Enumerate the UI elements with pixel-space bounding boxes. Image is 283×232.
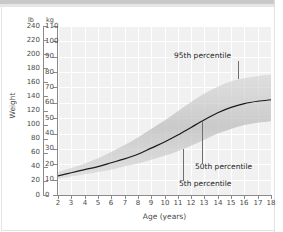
y-axis-line-kg [57,26,58,195]
window-top-bar [0,0,283,7]
chart-card: lb kg Weight 01020304050607 [1,7,275,231]
y-tick-lb [43,26,48,27]
y-tick-label-kg: 70 [45,84,54,91]
annotation-95th-leader-line [238,61,239,79]
y-tick-label-lb: 140 [16,93,40,100]
annotation-50th-leader-line [202,121,203,164]
y-tick-label-lb: 240 [16,23,40,30]
y-tick-label-kg: 50 [45,115,54,122]
annotation-50th-percentile: 50th percentile [195,162,252,171]
y-tick-lb [43,139,48,140]
y-tick-lb [43,40,48,41]
y-tick-lb [43,96,48,97]
y-tick-label-lb: 220 [16,37,40,44]
y-tick-lb [43,195,48,196]
y-tick-lb [43,167,48,168]
x-tick-label: 18 [263,200,279,207]
y-tick-label-lb: 80 [16,135,40,142]
chart-screenshot: lb kg Weight 01020304050607 [0,0,283,232]
y-tick-label-kg: 30 [45,145,54,152]
annotation-5th-percentile: 5th percentile [179,179,231,188]
y-tick-label-lb: 100 [16,121,40,128]
annotation-95th-percentile: 95th percentile [174,51,231,60]
y-tick-label-kg: 60 [45,99,54,106]
y-tick-label-lb: 40 [16,163,40,170]
y-tick-label-lb: 180 [16,65,40,72]
y-tick-label-kg: 80 [45,69,54,76]
x-axis-line [57,195,271,196]
y-tick-lb [43,125,48,126]
y-tick-lb [43,68,48,69]
y-tick-label-lb: 0 [16,192,40,199]
y-tick-lb [43,82,48,83]
y-tick-label-lb: 20 [16,177,40,184]
x-axis-label: Age (years) [58,212,271,221]
y-tick-lb [43,181,48,182]
y-tick-label-lb: 200 [16,51,40,58]
annotation-5th-leader-line [183,149,184,181]
y-tick-lb [43,153,48,154]
right-edge-strip [274,0,283,232]
y-tick-label-lb: 60 [16,149,40,156]
y-tick-label-kg: 40 [45,130,54,137]
y-tick-lb [43,111,48,112]
y-tick-label-lb: 120 [16,107,40,114]
y-tick-label-lb: 160 [16,79,40,86]
y-tick-lb [43,54,48,55]
